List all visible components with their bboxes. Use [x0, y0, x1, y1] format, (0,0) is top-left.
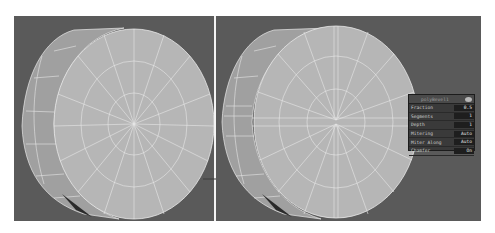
attr-row-segments[interactable]: Segments 1	[409, 113, 474, 122]
attr-value-field[interactable]: Auto	[454, 131, 474, 137]
attr-label: Miter Along	[409, 140, 454, 145]
attr-value-field[interactable]: 1	[454, 113, 474, 119]
viewport-before[interactable]	[14, 16, 214, 221]
attr-label: Chamfer	[409, 148, 454, 153]
attr-label: Depth	[409, 122, 454, 127]
bevel-inline-panel[interactable]: polyBevel1 Fraction 0.5 Segments 1 Depth…	[408, 94, 475, 151]
attr-label: Fraction	[409, 105, 454, 110]
attr-row-fraction[interactable]: Fraction 0.5	[409, 104, 474, 113]
attr-label: Mitering	[409, 131, 454, 136]
attr-row-depth[interactable]: Depth 1	[409, 121, 474, 130]
attr-value-field[interactable]: 1	[454, 122, 474, 128]
cylinder-mesh-before	[14, 16, 214, 221]
attr-row-mitering[interactable]: Mitering Auto	[409, 130, 474, 139]
attr-value-field[interactable]: On	[454, 148, 474, 154]
attr-value-field[interactable]: Auto	[454, 139, 474, 145]
panel-header[interactable]: polyBevel1	[409, 95, 474, 104]
panel-title: polyBevel1	[411, 97, 449, 102]
attr-label: Segments	[409, 114, 454, 119]
toggle-icon[interactable]	[465, 97, 472, 102]
attr-row-chamfer[interactable]: Chamfer On	[409, 147, 474, 156]
attr-row-miter-along[interactable]: Miter Along Auto	[409, 138, 474, 147]
attr-value-field[interactable]: 0.5	[454, 105, 474, 111]
